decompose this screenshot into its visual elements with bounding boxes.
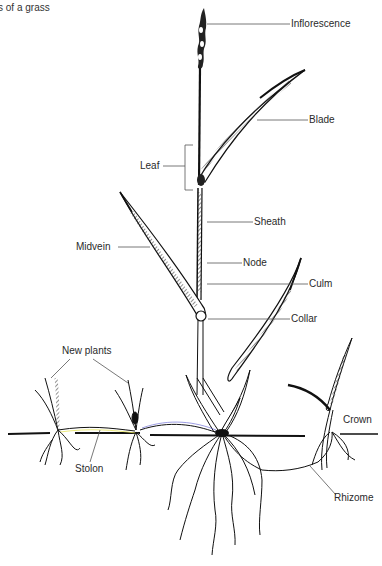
label-leaf: Leaf [140,160,159,172]
label-midvein: Midvein [76,241,110,253]
new-plant-2 [115,380,155,470]
label-new-plants: New plants [62,345,111,357]
label-stolon: Stolon [75,463,103,475]
culm [197,68,224,415]
rhizome-shoot [288,338,352,470]
crown-base [215,429,229,437]
label-blade: Blade [309,114,335,126]
label-culm: Culm [309,278,332,290]
label-rhizome: Rhizome [334,492,373,504]
inflorescence [197,8,206,69]
upper-blade [197,70,305,186]
label-crown: Crown [343,414,372,426]
leader-lines [51,24,336,495]
label-node: Node [243,257,267,269]
label-collar: Collar [291,313,317,325]
crown-leaves [186,370,250,432]
label-inflorescence: Inflorescence [291,18,350,30]
midvein-leaf [120,192,206,321]
new-plant-1 [35,378,80,465]
label-sheath: Sheath [254,216,286,228]
